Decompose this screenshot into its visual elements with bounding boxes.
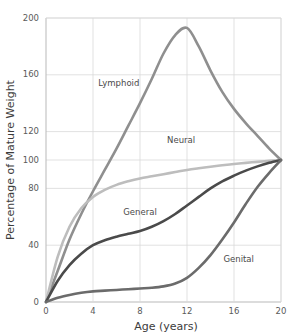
x-tick-label: 4	[90, 306, 95, 316]
x-tick-label: 12	[182, 306, 193, 316]
x-tick-label: 20	[276, 306, 287, 316]
y-axis-title: Percentage of Mature Weight	[4, 79, 17, 240]
series-label-lymphoid: Lymphoid	[98, 78, 139, 88]
y-tick-label: 100	[23, 155, 39, 165]
series-label-neural: Neural	[167, 135, 195, 145]
chart-canvas: 04080100120160200 048121620 LymphoidNeur…	[0, 0, 300, 334]
x-tick-label: 16	[229, 306, 240, 316]
y-tick-label: 80	[28, 183, 39, 193]
curve-genital	[46, 160, 281, 302]
curve-neural	[46, 160, 281, 302]
curve-general	[46, 160, 281, 302]
y-tick-label: 0	[34, 297, 39, 307]
x-tick-label: 8	[137, 306, 142, 316]
y-axis-ticks: 04080100120160200	[23, 13, 39, 307]
series-label-general: General	[123, 207, 157, 217]
x-axis-ticks: 048121620	[43, 306, 286, 316]
x-tick-label: 0	[43, 306, 48, 316]
series-label-genital: Genital	[223, 254, 253, 264]
y-tick-label: 160	[23, 69, 39, 79]
y-tick-label: 40	[28, 240, 39, 250]
y-tick-label: 120	[23, 126, 39, 136]
x-axis-title: Age (years)	[134, 320, 198, 333]
growth-curves-chart: 04080100120160200 048121620 LymphoidNeur…	[0, 0, 300, 334]
y-tick-label: 200	[23, 13, 39, 23]
